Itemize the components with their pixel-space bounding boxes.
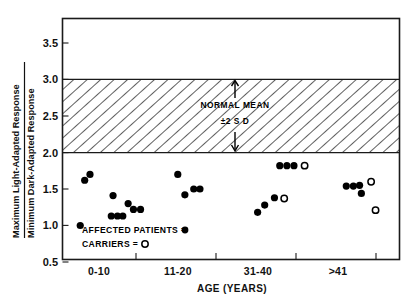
y-tick-label: 2.0: [43, 147, 58, 159]
normal-mean-label: NORMAL MEAN: [200, 100, 269, 110]
y-axis-title-denominator: Minimum Dark-Adapted Response: [26, 88, 36, 238]
data-point-affected: [196, 185, 203, 192]
data-point-carrier: [281, 195, 287, 201]
data-point-affected: [81, 177, 88, 184]
scatter-chart: 0.5 1.0 1.5 2.0 2.5 3.0 3.5 0-10 11-20 3…: [0, 0, 414, 297]
legend-filled-circle-icon: [182, 227, 189, 234]
data-point-affected: [119, 212, 126, 219]
data-point-affected: [108, 212, 115, 219]
x-tick-label: 11-20: [164, 265, 192, 277]
legend-open-circle-icon: [142, 241, 148, 247]
data-point-affected: [181, 191, 188, 198]
y-tick-label: 2.5: [43, 110, 58, 122]
data-point-affected: [109, 192, 116, 199]
y-tick-label: 3.5: [43, 37, 58, 49]
data-point-affected: [254, 209, 261, 216]
y-tick-label: 0.5: [43, 256, 58, 268]
x-tick-label: >41: [329, 265, 348, 277]
data-point-affected: [276, 162, 283, 169]
data-point-affected: [290, 162, 297, 169]
x-tick-label: 31-40: [244, 265, 272, 277]
data-point-affected: [77, 222, 84, 229]
two-sd-label: ±2 S D: [221, 116, 250, 126]
data-point-affected: [174, 171, 181, 178]
data-point-affected: [358, 190, 365, 197]
data-point-affected: [86, 171, 93, 178]
data-point-carrier: [372, 207, 378, 213]
data-point-affected: [271, 194, 278, 201]
y-tick-label: 1.0: [43, 219, 58, 231]
data-point-affected: [130, 206, 137, 213]
data-point-affected: [283, 162, 290, 169]
figure-container: 0.5 1.0 1.5 2.0 2.5 3.0 3.5 0-10 11-20 3…: [0, 0, 414, 297]
data-point-carrier: [368, 179, 374, 185]
data-point-affected: [350, 182, 357, 189]
data-point-affected: [261, 201, 268, 208]
data-point-carrier: [301, 162, 307, 168]
data-point-affected: [356, 182, 363, 189]
x-axis-title: AGE (YEARS): [197, 283, 267, 294]
data-point-affected: [125, 200, 132, 207]
y-tick-label: 1.5: [43, 183, 58, 195]
data-point-affected: [343, 182, 350, 189]
legend-affected-label: AFFECTED PATIENTS =: [82, 225, 186, 235]
y-tick-label: 3.0: [43, 73, 58, 85]
data-point-affected: [137, 206, 144, 213]
legend-carriers-label: CARRIERS =: [82, 239, 138, 249]
data-point-affected: [190, 185, 197, 192]
x-tick-label: 0-10: [88, 265, 110, 277]
y-axis-title-numerator: Maximum Light-Adapted Response: [11, 84, 21, 238]
